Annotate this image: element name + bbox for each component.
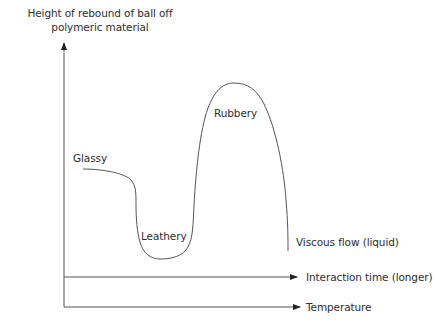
y-axis-title-line-2: polymeric material xyxy=(0,20,200,34)
rubbery-label: Rubbery xyxy=(214,107,257,120)
interaction-time-label: Interaction time (longer) xyxy=(306,271,433,284)
y-axis-title: Height of rebound of ball off polymeric … xyxy=(0,6,200,34)
leathery-label: Leathery xyxy=(141,230,187,243)
viscous-flow-label: Viscous flow (liquid) xyxy=(296,236,399,249)
y-axis-title-line-1: Height of rebound of ball off xyxy=(0,6,200,20)
rebound-diagram: Height of rebound of ball off polymeric … xyxy=(0,0,435,328)
temperature-label: Temperature xyxy=(306,301,371,314)
glassy-label: Glassy xyxy=(73,152,107,165)
